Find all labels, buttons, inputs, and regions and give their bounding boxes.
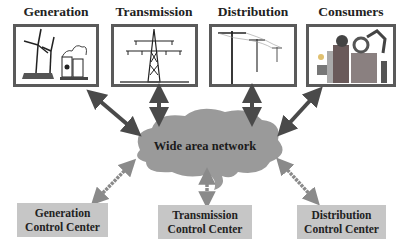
- transmission-control-center: Transmission Control Center: [158, 205, 252, 239]
- cc-line2: Control Center: [158, 222, 252, 236]
- cc-line2: Control Center: [297, 222, 386, 236]
- cc-line1: Generation: [17, 206, 108, 220]
- wide-area-network-label: Wide area network: [140, 139, 270, 154]
- generation-control-center: Generation Control Center: [17, 203, 108, 237]
- cc-line1: Transmission: [158, 208, 252, 222]
- cc-line2: Control Center: [17, 220, 108, 234]
- distribution-control-center: Distribution Control Center: [297, 205, 386, 239]
- cc-line1: Distribution: [297, 208, 386, 222]
